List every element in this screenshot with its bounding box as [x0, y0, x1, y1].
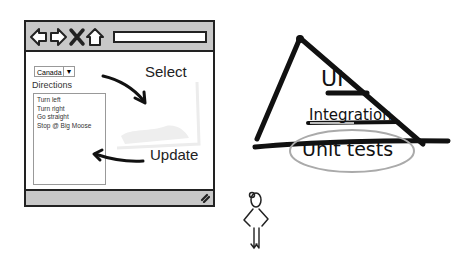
list-item: Go straight	[37, 113, 102, 122]
resize-grip-icon[interactable]	[200, 193, 210, 203]
stop-x-icon[interactable]	[71, 30, 83, 44]
browser-window: Canada ▼ Directions Turn left Turn right…	[24, 20, 215, 207]
country-select-value: Canada	[37, 67, 62, 78]
home-icon[interactable]	[87, 29, 103, 45]
pyramid-level-ui: UI	[321, 66, 344, 91]
pyramid-level-unit-tests: Unit tests	[302, 138, 393, 160]
pyramid-level-integration: Integration	[309, 106, 392, 124]
browser-toolbar	[26, 22, 213, 52]
list-item: Turn left	[37, 96, 102, 105]
forward-arrow-icon[interactable]	[51, 29, 66, 45]
status-bar	[26, 189, 213, 205]
directions-label: Directions	[32, 80, 72, 90]
back-arrow-icon[interactable]	[31, 29, 46, 45]
list-item: Turn right	[37, 105, 102, 114]
update-arrow-icon	[88, 145, 148, 170]
list-item: Stop @ Big Moose	[37, 122, 102, 131]
country-select[interactable]: Canada ▼	[34, 66, 75, 77]
update-annotation: Update	[150, 146, 198, 163]
chevron-down-icon[interactable]: ▼	[63, 67, 74, 76]
url-input[interactable]	[113, 31, 207, 43]
select-annotation: Select	[145, 63, 187, 80]
stick-figure-icon	[240, 190, 270, 260]
